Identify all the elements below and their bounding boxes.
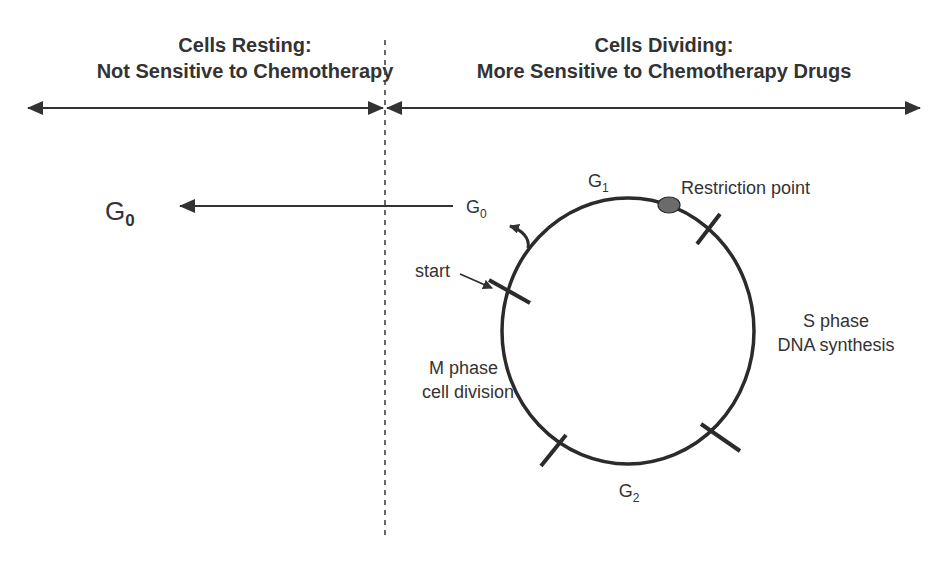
m-phase-label: M phase xyxy=(429,358,498,378)
g0-resting-label: G0 xyxy=(105,196,135,230)
header-resting: Cells Resting: Not Sensitive to Chemothe… xyxy=(97,34,395,82)
header-resting-line2: Not Sensitive to Chemotherapy xyxy=(97,60,395,82)
g0-exit-label: G0 xyxy=(466,197,487,221)
s-phase-description: DNA synthesis xyxy=(777,335,894,355)
m-phase-description: cell division xyxy=(422,382,514,402)
restriction-point-dot xyxy=(658,197,680,213)
checkpoint-g1-tick xyxy=(697,214,720,244)
header-dividing-line2: More Sensitive to Chemotherapy Drugs xyxy=(477,60,852,82)
header-resting-line1: Cells Resting: xyxy=(178,34,311,56)
header-dividing-line1: Cells Dividing: xyxy=(595,34,734,56)
start-label: start xyxy=(415,261,450,281)
g2-label: G2 xyxy=(619,481,640,505)
cell-cycle-diagram: Cells Resting: Not Sensitive to Chemothe… xyxy=(0,0,948,566)
checkpoint-s-tick xyxy=(701,424,740,451)
g1-label: G1 xyxy=(588,171,609,195)
start-pointer-arrow xyxy=(460,274,492,288)
header-dividing: Cells Dividing: More Sensitive to Chemot… xyxy=(477,34,852,82)
restriction-point-label: Restriction point xyxy=(681,178,810,198)
g0-exit-curve-arrow xyxy=(510,226,528,248)
cell-cycle-circle xyxy=(502,198,754,464)
s-phase-label: S phase xyxy=(803,311,869,331)
